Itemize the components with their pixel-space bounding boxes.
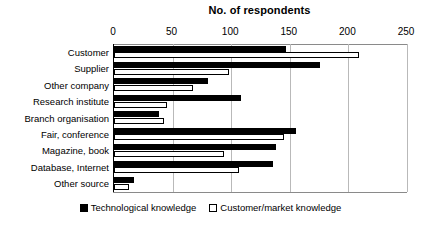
x-tick-label: 100 [210,26,250,38]
chart-category-row [114,60,406,76]
x-tick-label: 250 [386,26,421,38]
bar-customer-market-knowledge [114,167,239,173]
bar-technological-knowledge [114,95,241,101]
plot-area [113,44,406,192]
bar-technological-knowledge [114,177,134,183]
bar-customer-market-knowledge [114,118,164,124]
x-tick-label: 150 [269,26,309,38]
y-axis-label: Other company [0,80,109,91]
chart-legend: Technological knowledgeCustomer/market k… [0,202,421,213]
x-tick-label: 0 [93,26,133,38]
x-tick-label: 50 [152,26,192,38]
bar-customer-market-knowledge [114,184,129,190]
y-axis-category-labels: CustomerSupplierOther companyResearch in… [0,44,109,192]
bar-technological-knowledge [114,46,286,52]
bar-customer-market-knowledge [114,52,359,58]
chart-category-row [114,143,406,159]
bar-customer-market-knowledge [114,151,224,157]
chart-category-row [114,126,406,142]
y-axis-label: Magazine, book [0,145,109,156]
bar-technological-knowledge [114,78,208,84]
bar-technological-knowledge [114,62,320,68]
x-axis-tick-labels: 050100150200250 [0,26,421,40]
y-axis-label: Research institute [0,96,109,107]
chart-title: No. of respondents [113,4,406,17]
bar-customer-market-knowledge [114,134,284,140]
x-tick-label: 200 [327,26,367,38]
chart-category-row [114,93,406,109]
y-axis-label: Supplier [0,63,109,74]
chart-category-row [114,44,406,60]
legend-entry: Customer/market knowledge [209,202,341,213]
gridline [407,44,408,192]
y-axis-label: Branch organisation [0,113,109,124]
legend-entry: Technological knowledge [80,202,197,213]
legend-swatch-icon [80,204,88,212]
bar-technological-knowledge [114,111,159,117]
bar-technological-knowledge [114,144,276,150]
bar-chart: No. of respondents 050100150200250 Custo… [0,0,421,229]
chart-category-row [114,176,406,192]
bar-customer-market-knowledge [114,85,193,91]
plot-frame-bottom-border [113,192,407,193]
y-axis-label: Database, Internet [0,162,109,173]
legend-label: Customer/market knowledge [220,202,341,213]
chart-category-row [114,110,406,126]
bar-technological-knowledge [114,161,273,167]
bar-customer-market-knowledge [114,69,229,75]
legend-label: Technological knowledge [91,202,197,213]
bar-customer-market-knowledge [114,102,167,108]
legend-swatch-icon [209,204,217,212]
y-axis-label: Customer [0,47,109,58]
y-axis-label: Other source [0,178,109,189]
chart-category-row [114,159,406,175]
bar-technological-knowledge [114,128,296,134]
chart-category-row [114,77,406,93]
y-axis-label: Fair, conference [0,129,109,140]
